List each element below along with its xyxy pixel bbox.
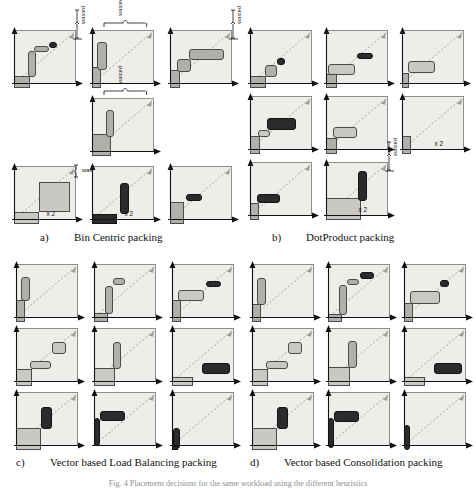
packed-item [14,212,39,224]
packed-item [333,127,357,138]
balance-diagonal [405,393,465,445]
balance-diagonal [403,97,463,149]
packed-item [250,136,260,154]
bin-area [404,392,466,446]
packed-item [178,290,204,302]
section-title-c: Vector based Load Balancing packing [50,456,217,468]
resource-bin [244,28,318,94]
packed-item [39,182,70,212]
resource-bin [320,94,394,160]
resource-bin [10,326,84,392]
resource-bin [398,390,472,456]
packed-item [258,130,270,137]
section-caption-c: c)Vector based Load Balancing packing [16,456,217,468]
packed-item [408,61,435,73]
wasted-label: wasted [80,6,86,24]
bin-area [172,392,234,446]
wasted-label: wasted [117,0,123,16]
resource-bin [10,262,84,328]
packed-item [348,341,357,368]
resource-bin: x 2 [86,164,160,230]
resource-bin [398,326,472,392]
packed-item [357,53,373,59]
section-tag-a: a) [40,231,74,243]
section-tag-d: d) [250,456,284,468]
resource-bin [396,28,470,94]
multiplier-label: x 2 [358,206,367,213]
resource-bin [166,390,240,456]
packed-item [410,291,440,304]
packed-item [92,214,117,224]
packed-item [404,303,413,322]
packed-item [265,65,277,77]
packed-item [94,368,115,386]
section-title-d: Vector based Consolidation packing [284,456,443,468]
packed-item [277,58,284,65]
resource-bin [244,94,318,160]
packed-item [30,361,51,370]
packed-item [326,198,361,220]
packed-item [177,59,191,72]
section-tag-b: b) [272,231,306,243]
packed-item [434,363,463,374]
resource-bin: x 2wasted [320,160,394,226]
resource-bin: wasted [86,28,160,94]
packed-item [113,342,122,369]
packed-item [267,118,296,130]
packed-item [41,407,52,430]
balance-diagonal [403,31,463,83]
packed-item [334,411,359,422]
wasted-label: wasted [236,6,242,24]
packed-item [189,49,224,60]
packed-item [326,74,337,88]
packed-item [97,42,107,70]
wasted-label: wasted [117,66,123,84]
packed-item [347,279,359,285]
packed-item [16,428,41,450]
section-caption-d: d)Vector based Consolidation packing [250,456,443,468]
packed-item [328,367,350,386]
packed-item [404,377,425,386]
resource-bin: wasted [164,28,238,94]
wasted-label: wasted [392,138,398,156]
resource-bin: x 2wasted [8,164,82,230]
packed-item [277,407,288,430]
packed-item [252,304,261,322]
multiplier-label: x 2 [124,210,133,217]
packed-item [172,377,193,386]
packed-item [105,286,114,314]
packed-item [250,76,266,88]
resource-bin: x 2 [396,94,470,160]
packed-item [49,42,56,48]
packed-item [202,363,231,374]
figure-root: wastedwastedwastedwastedx 2wastedx 2x 2x… [0,0,476,489]
packed-item [106,110,115,137]
packed-item [113,278,125,285]
packed-item [402,73,409,88]
packed-item [206,281,221,287]
multiplier-label: x 2 [46,210,55,217]
multiplier-label: x 2 [434,140,443,147]
packed-item [328,314,342,322]
packed-item [404,425,410,450]
balance-diagonal [173,393,233,445]
section-title-b: DotProduct packing [306,231,394,243]
packed-item [402,136,411,154]
packed-item [94,418,100,446]
packed-item [92,134,111,156]
packed-item [288,342,302,354]
bin-area [94,264,156,318]
resource-bin [88,390,162,456]
packed-item [14,76,30,88]
packed-item [339,285,348,315]
balance-diagonal [251,163,311,215]
bin-area [250,162,312,216]
packed-item [28,51,37,77]
resource-bin [246,390,320,456]
packed-item [172,300,181,322]
packed-item [172,446,178,450]
packed-item [16,300,25,322]
packed-item [100,411,125,421]
packed-item [21,277,30,302]
packed-item [360,272,374,278]
